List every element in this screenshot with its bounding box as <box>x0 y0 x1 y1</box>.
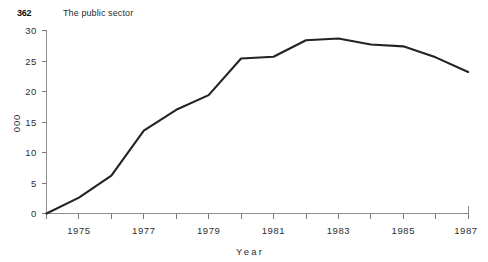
x-tick-label: 1979 <box>197 225 221 236</box>
y-axis-ticks <box>42 31 47 214</box>
page-number: 362 <box>17 8 31 18</box>
chart-svg: 30 25 20 15 10 5 0 000 <box>0 22 488 262</box>
x-axis-line <box>47 206 469 214</box>
y-axis-tick-labels: 30 25 20 15 10 5 0 <box>25 25 37 219</box>
y-axis-title: 000 <box>11 114 22 132</box>
y-tick-label: 15 <box>25 117 37 128</box>
chapter-title: The public sector <box>63 8 133 18</box>
page-canvas: 362 The public sector 30 25 20 15 <box>0 0 488 262</box>
x-tick-label: 1985 <box>392 225 416 236</box>
y-tick-label: 30 <box>25 25 37 36</box>
x-tick-label: 1987 <box>454 225 478 236</box>
y-tick-label: 0 <box>31 208 37 219</box>
y-tick-label: 25 <box>25 56 37 67</box>
y-tick-label: 10 <box>25 147 37 158</box>
x-tick-label: 1977 <box>132 225 156 236</box>
x-axis-ticks <box>47 214 469 219</box>
x-tick-label: 1981 <box>262 225 286 236</box>
y-tick-label: 20 <box>25 86 37 97</box>
x-axis-tick-labels: 1975 1977 1979 1981 1983 1985 1987 <box>67 225 478 236</box>
line-chart-figure: 30 25 20 15 10 5 0 000 <box>0 22 488 262</box>
x-tick-label: 1983 <box>327 225 351 236</box>
y-tick-label: 5 <box>31 178 37 189</box>
data-series-line <box>47 38 469 213</box>
x-tick-label: 1975 <box>67 225 91 236</box>
x-axis-title: Year <box>236 246 264 257</box>
